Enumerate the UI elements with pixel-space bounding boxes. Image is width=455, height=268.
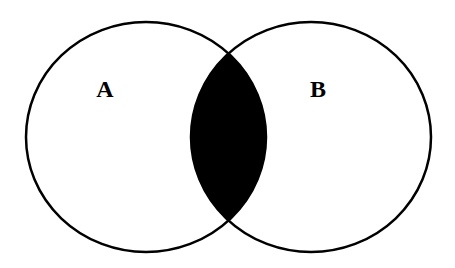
set-a-label: A — [96, 76, 114, 102]
venn-diagram: A B — [0, 0, 455, 268]
set-b-label: B — [310, 76, 326, 102]
